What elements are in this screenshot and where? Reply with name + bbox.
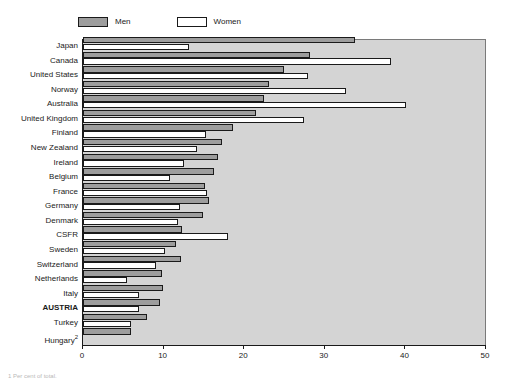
x-axis-tick: [324, 345, 325, 349]
x-axis-ticks: 01020304050: [0, 345, 506, 367]
legend-item-men: Men: [78, 17, 131, 27]
bar-men: [83, 66, 284, 72]
x-axis-tick-label: 0: [80, 351, 84, 361]
bar-men: [83, 95, 264, 101]
bar-men: [83, 110, 256, 116]
bar-women: [83, 292, 139, 298]
bar-men: [83, 212, 203, 218]
x-axis-tick-label: 40: [400, 351, 409, 361]
bar-women: [83, 219, 178, 225]
bar-men: [83, 241, 176, 247]
bar-men: [83, 328, 131, 334]
chart-row: AUSTRIA: [0, 298, 506, 313]
bar-men: [83, 154, 218, 160]
bar-men: [83, 197, 209, 203]
x-axis-tick-label: 10: [158, 351, 167, 361]
chart-row: Ireland: [0, 153, 506, 168]
chart-row: Belgium: [0, 167, 506, 182]
chart-row: Turkey: [0, 313, 506, 328]
bar-women: [83, 204, 180, 210]
chart-row: Italy: [0, 284, 506, 299]
chart-row: Denmark: [0, 211, 506, 226]
legend-item-women: Women: [177, 17, 241, 27]
chart-row: New Zealand: [0, 138, 506, 153]
chart-row: Netherlands: [0, 269, 506, 284]
bar-women: [83, 73, 308, 79]
chart-row: Hungary2: [0, 327, 506, 342]
bar-women: [83, 58, 391, 64]
bar-men: [83, 52, 310, 58]
chart-row: Japan: [0, 36, 506, 51]
legend-swatch-women-icon: [177, 17, 207, 27]
legend-swatch-men-icon: [78, 17, 108, 27]
bar-men: [83, 183, 205, 189]
bar-men: [83, 270, 162, 276]
bar-women: [83, 306, 139, 312]
chart-row: Switzerland: [0, 255, 506, 270]
chart-row: Finland: [0, 123, 506, 138]
chart-legend: Men Women: [78, 14, 241, 30]
category-label-footnote-marker: 2: [75, 334, 78, 340]
bar-women: [83, 233, 228, 239]
horizontal-bar-chart: Men Women JapanCanadaUnited StatesNorway…: [0, 0, 506, 382]
chart-row: CSFR: [0, 225, 506, 240]
bar-women: [83, 160, 184, 166]
bar-women: [83, 175, 170, 181]
chart-footnote: 1 Per cent of total.: [8, 372, 57, 380]
legend-label-women: Women: [214, 17, 241, 27]
x-axis-tick: [243, 345, 244, 349]
bar-men: [83, 226, 182, 232]
chart-rows: JapanCanadaUnited StatesNorwayAustraliaU…: [0, 39, 506, 345]
x-axis-tick: [82, 345, 83, 349]
chart-row: Sweden: [0, 240, 506, 255]
bar-men: [83, 299, 160, 305]
legend-label-men: Men: [115, 17, 131, 27]
bar-women: [83, 321, 131, 327]
bar-men: [83, 81, 269, 87]
x-axis-tick-label: 50: [481, 351, 490, 361]
bar-men: [83, 139, 222, 145]
chart-row: France: [0, 182, 506, 197]
chart-row: Norway: [0, 80, 506, 95]
bar-women: [83, 190, 207, 196]
bar-women: [83, 277, 127, 283]
bar-men: [83, 256, 181, 262]
bar-women: [83, 117, 304, 123]
x-axis-tick: [163, 345, 164, 349]
bar-women: [83, 262, 156, 268]
bar-women: [83, 131, 206, 137]
chart-row: United Kingdom: [0, 109, 506, 124]
bar-men: [83, 124, 233, 130]
bar-women: [83, 88, 346, 94]
x-axis-tick: [404, 345, 405, 349]
chart-row: Germany: [0, 196, 506, 211]
x-axis-tick-label: 20: [239, 351, 248, 361]
bar-men: [83, 285, 163, 291]
bar-men: [83, 37, 355, 43]
bar-men: [83, 314, 147, 320]
chart-row: United States: [0, 65, 506, 80]
bar-women: [83, 44, 189, 50]
chart-row: Australia: [0, 94, 506, 109]
bar-men: [83, 168, 214, 174]
chart-row: Canada: [0, 51, 506, 66]
x-axis-tick-label: 30: [319, 351, 328, 361]
bar-women: [83, 102, 406, 108]
x-axis-tick: [485, 345, 486, 349]
bar-women: [83, 146, 197, 152]
bar-women: [83, 248, 165, 254]
